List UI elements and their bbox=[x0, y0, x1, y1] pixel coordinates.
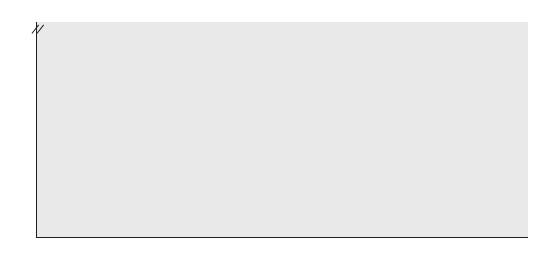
chart-figure bbox=[0, 0, 536, 263]
series-layer bbox=[0, 0, 536, 263]
